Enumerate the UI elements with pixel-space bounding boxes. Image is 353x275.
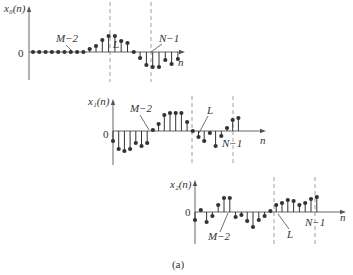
stem-marker xyxy=(69,50,73,54)
stem-marker xyxy=(37,50,41,54)
annotation-label: L xyxy=(206,104,213,116)
stem-marker xyxy=(125,41,129,45)
stem-marker xyxy=(145,141,149,145)
annotation-leader-line xyxy=(140,115,149,130)
stem-marker xyxy=(31,50,35,54)
stem-marker xyxy=(292,199,296,203)
stem-marker xyxy=(179,111,183,115)
annotation-label: N−1 xyxy=(304,216,325,228)
stem-marker xyxy=(128,147,132,151)
stem-marker xyxy=(196,135,200,139)
stem-marker xyxy=(157,65,161,69)
stem-marker xyxy=(257,218,261,222)
stem-marker xyxy=(234,215,238,219)
stem-marker xyxy=(202,139,206,143)
annotation-label: L xyxy=(286,228,293,240)
y-axis-arrow-icon xyxy=(27,6,31,12)
stem-plot-x2: x₂(n)0nM−2LN−1 xyxy=(169,177,346,246)
stem-marker xyxy=(208,131,212,135)
x-axis-arrow-icon xyxy=(260,129,266,133)
stem-marker xyxy=(205,220,209,224)
stem-marker xyxy=(162,113,166,117)
stem-marker xyxy=(122,149,126,153)
stem-marker xyxy=(170,62,174,66)
plots-layer: x₀(n)0nM−2LN−1x₁(n)0nM−2LN−1x₂(n)0nM−2LN… xyxy=(3,2,346,246)
stem-marker xyxy=(303,201,307,205)
stem-marker xyxy=(236,116,240,120)
stem-marker xyxy=(117,147,121,151)
stem-marker xyxy=(132,50,136,54)
stem-marker xyxy=(157,122,161,126)
annotation-label: M−2 xyxy=(207,230,231,242)
stem-marker xyxy=(214,144,218,148)
stem-marker xyxy=(274,203,278,207)
stem-marker xyxy=(315,195,319,199)
x-axis-label: n xyxy=(178,56,184,68)
annotation-label: N−1 xyxy=(221,137,242,149)
annotation-label: L xyxy=(112,38,119,50)
annotation-leader-line xyxy=(199,116,208,133)
stem-marker xyxy=(88,47,92,51)
x-axis-label: n xyxy=(340,211,346,223)
x-axis-arrow-icon xyxy=(179,50,185,54)
stem-marker xyxy=(107,34,111,38)
stem-marker xyxy=(228,196,232,200)
zero-label: 0 xyxy=(103,128,109,140)
stem-marker xyxy=(151,128,155,132)
annotation-leader-line xyxy=(66,45,72,51)
stem-marker xyxy=(191,129,195,133)
stem-marker xyxy=(168,111,172,115)
stem-marker xyxy=(263,214,267,218)
stem-marker xyxy=(309,197,313,201)
stem-marker xyxy=(139,144,143,148)
stem-marker xyxy=(50,50,54,54)
stem-marker xyxy=(62,50,66,54)
annotation-label: N−1 xyxy=(158,32,179,44)
stem-marker xyxy=(56,50,60,54)
stem-marker xyxy=(225,126,229,130)
stem-marker xyxy=(163,58,167,62)
annotation-label: M−2 xyxy=(55,32,79,44)
stem-marker xyxy=(81,50,85,54)
stem-marker xyxy=(174,111,178,115)
stem-marker xyxy=(144,63,148,67)
stem-marker xyxy=(222,196,226,200)
stem-marker xyxy=(100,38,104,42)
stem-marker xyxy=(185,120,189,124)
figure-caption: (a) xyxy=(172,258,185,271)
y-axis-arrow-icon xyxy=(193,180,197,186)
y-axis-label: x₂(n) xyxy=(169,178,192,191)
x-axis-label: n xyxy=(260,134,266,146)
annotation-label: M−2 xyxy=(129,102,153,114)
stem-marker xyxy=(75,50,79,54)
zero-label: 0 xyxy=(18,47,24,59)
y-axis-label: x₁(n) xyxy=(87,95,110,108)
stem-marker xyxy=(111,139,115,143)
stem-marker xyxy=(251,225,255,229)
stem-plot-figure: x₀(n)0nM−2LN−1x₁(n)0nM−2LN−1x₂(n)0nM−2LN… xyxy=(0,0,353,275)
y-axis-arrow-icon xyxy=(111,99,115,105)
stem-marker xyxy=(119,39,123,43)
stem-marker xyxy=(239,213,243,217)
stem-marker xyxy=(268,209,272,213)
stem-marker xyxy=(44,50,48,54)
stem-marker xyxy=(151,65,155,69)
stem-marker xyxy=(210,214,214,218)
stem-marker xyxy=(193,218,197,222)
stem-plot-x1: x₁(n)0nM−2LN−1 xyxy=(87,95,266,166)
y-axis-label: x₀(n) xyxy=(3,2,26,15)
stem-marker xyxy=(245,219,249,223)
zero-label: 0 xyxy=(185,206,191,218)
stem-marker xyxy=(138,56,142,60)
stem-marker xyxy=(199,208,203,212)
annotation-leader-line xyxy=(151,44,162,52)
stem-marker xyxy=(216,203,220,207)
stem-marker xyxy=(286,198,290,202)
stem-marker xyxy=(94,44,98,48)
annotation-leader-line xyxy=(278,214,289,229)
stem-marker xyxy=(231,118,235,122)
stem-marker xyxy=(297,203,301,207)
stem-plot-x0: x₀(n)0nM−2LN−1 xyxy=(3,2,185,82)
stem-marker xyxy=(134,141,138,145)
stem-marker xyxy=(280,201,284,205)
